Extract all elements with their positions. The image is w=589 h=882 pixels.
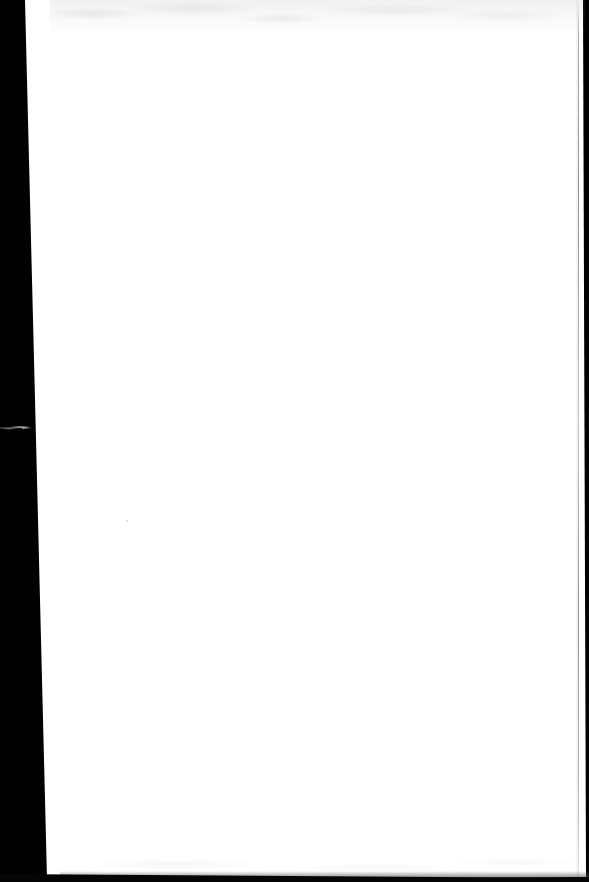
paper-sheet <box>0 0 589 882</box>
page-content-area <box>48 30 560 850</box>
scanned-page-canvas: Blank scanned page <box>0 0 589 882</box>
